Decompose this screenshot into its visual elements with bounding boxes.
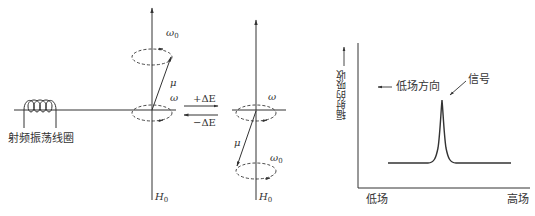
rf-coil-label: 射频振荡线圈 xyxy=(8,133,74,144)
state1-h0-label: H0 xyxy=(155,192,168,204)
signal-label: 信号 xyxy=(468,74,490,85)
state1-omega-label: ω xyxy=(170,93,178,103)
state2-h0-label: H0 xyxy=(259,192,272,204)
state1-mu-vector xyxy=(152,57,171,110)
state1-mu-label: μ xyxy=(170,78,177,88)
low-field-direction-label: 低场方向 xyxy=(396,81,440,92)
signal-pointer-arrow-icon xyxy=(450,81,466,95)
transition-arrows xyxy=(184,106,218,115)
signal-peak-curve xyxy=(388,100,511,163)
forward-transition-label: +ΔE xyxy=(193,94,216,104)
state2-omega0-label: ω0 xyxy=(270,153,283,165)
backward-transition-label: −ΔE xyxy=(193,118,216,128)
y-axis-label: 辐射的吸收 xyxy=(337,70,347,120)
state2-mu-label: μ xyxy=(234,138,241,148)
chart-axes xyxy=(358,43,530,188)
x-axis-high-field-label: 高场 xyxy=(507,194,529,205)
state1-omega0-label: ω0 xyxy=(166,28,179,40)
x-axis-low-field-label: 低场 xyxy=(366,194,388,205)
state2-omega-label: ω xyxy=(268,92,276,102)
diagram-canvas xyxy=(0,0,535,216)
